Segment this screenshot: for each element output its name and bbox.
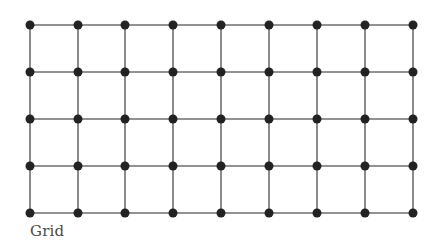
node-r4-c5 <box>265 209 274 218</box>
node-r2-c2 <box>121 115 130 124</box>
node-r4-c3 <box>169 209 178 218</box>
figure-caption: Grid <box>30 222 64 240</box>
node-r1-c7 <box>361 68 370 77</box>
node-r3-c0 <box>26 162 35 171</box>
node-r4-c7 <box>361 209 370 218</box>
node-r3-c5 <box>265 162 274 171</box>
node-r1-c1 <box>74 68 83 77</box>
node-r2-c5 <box>265 115 274 124</box>
node-r3-c6 <box>313 162 322 171</box>
node-r1-c8 <box>409 68 418 77</box>
node-r2-c1 <box>74 115 83 124</box>
node-r4-c1 <box>74 209 83 218</box>
node-r4-c4 <box>217 209 226 218</box>
node-r2-c6 <box>313 115 322 124</box>
node-r2-c3 <box>169 115 178 124</box>
node-r3-c8 <box>409 162 418 171</box>
node-r2-c7 <box>361 115 370 124</box>
node-r3-c1 <box>74 162 83 171</box>
node-r0-c8 <box>409 21 418 30</box>
node-r0-c2 <box>121 21 130 30</box>
node-r0-c5 <box>265 21 274 30</box>
node-r0-c7 <box>361 21 370 30</box>
grid-graph <box>0 0 435 249</box>
node-r0-c3 <box>169 21 178 30</box>
node-r3-c7 <box>361 162 370 171</box>
node-r2-c0 <box>26 115 35 124</box>
node-r1-c4 <box>217 68 226 77</box>
node-r1-c3 <box>169 68 178 77</box>
node-r4-c2 <box>121 209 130 218</box>
node-r1-c0 <box>26 68 35 77</box>
node-r2-c8 <box>409 115 418 124</box>
node-r3-c4 <box>217 162 226 171</box>
node-r0-c0 <box>26 21 35 30</box>
node-r0-c6 <box>313 21 322 30</box>
node-r1-c2 <box>121 68 130 77</box>
node-r1-c5 <box>265 68 274 77</box>
node-r4-c8 <box>409 209 418 218</box>
node-r3-c3 <box>169 162 178 171</box>
node-r2-c4 <box>217 115 226 124</box>
node-r1-c6 <box>313 68 322 77</box>
node-r4-c6 <box>313 209 322 218</box>
node-r4-c0 <box>26 209 35 218</box>
node-r3-c2 <box>121 162 130 171</box>
node-r0-c4 <box>217 21 226 30</box>
node-r0-c1 <box>74 21 83 30</box>
